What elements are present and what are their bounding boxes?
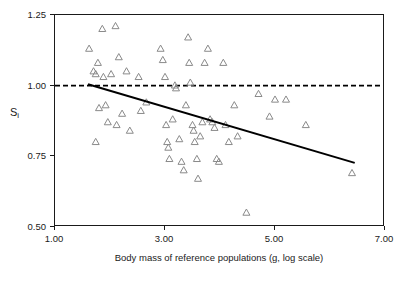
data-point-marker	[243, 209, 250, 215]
data-point-marker	[99, 25, 106, 31]
data-point-marker	[231, 102, 238, 108]
data-point-marker	[159, 56, 166, 62]
y-tick-label: 0.50	[6, 221, 46, 232]
plot-overlay	[55, 15, 383, 225]
data-point-marker	[178, 158, 185, 164]
data-point-marker	[266, 113, 273, 119]
data-point-marker	[115, 54, 122, 60]
data-point-marker	[272, 96, 279, 102]
x-tick-label: 5.00	[254, 233, 294, 244]
x-tick-label: 1.00	[34, 233, 74, 244]
x-axis-label: Body mass of reference populations (g, l…	[115, 252, 324, 263]
x-tick-label: 7.00	[364, 233, 404, 244]
y-axis-label: Si	[10, 106, 19, 118]
data-point-marker	[108, 71, 115, 77]
data-point-marker	[234, 133, 241, 139]
data-point-marker	[166, 155, 173, 161]
data-point-marker	[302, 121, 309, 127]
data-point-marker	[104, 119, 111, 125]
data-point-marker	[255, 90, 262, 96]
plot-area	[55, 15, 383, 225]
data-point-marker	[86, 45, 93, 51]
data-point-marker	[119, 110, 126, 116]
data-point-marker	[201, 59, 208, 65]
data-point-marker	[182, 102, 189, 108]
data-point-marker	[180, 167, 187, 173]
data-point-marker	[126, 127, 133, 133]
data-point-marker	[92, 138, 99, 144]
data-point-marker	[187, 79, 194, 85]
y-tick-label: 1.00	[6, 79, 46, 90]
data-point-marker	[162, 73, 169, 79]
data-point-marker	[94, 59, 101, 65]
x-tick-mark	[164, 226, 165, 230]
data-point-marker	[135, 73, 142, 79]
regression-line	[88, 84, 355, 163]
data-point-marker	[189, 121, 196, 127]
data-point-marker	[113, 121, 120, 127]
plot-frame	[54, 14, 384, 226]
data-point-marker	[102, 102, 109, 108]
data-point-marker	[225, 138, 232, 144]
x-tick-label: 3.00	[144, 233, 184, 244]
data-point-marker	[96, 104, 103, 110]
data-point-marker	[186, 59, 193, 65]
data-point-marker	[123, 68, 130, 74]
data-point-marker	[220, 59, 227, 65]
x-tick-mark	[54, 226, 55, 230]
data-point-marker	[193, 155, 200, 161]
data-point-marker	[157, 45, 164, 51]
data-point-marker	[112, 22, 119, 28]
y-tick-label: 0.75	[6, 150, 46, 161]
data-point-marker	[169, 116, 176, 122]
data-point-marker	[185, 34, 192, 40]
data-point-marker	[164, 138, 171, 144]
x-tick-mark	[384, 226, 385, 230]
scatter-chart: Si 0.500.751.001.25 1.003.005.007.00 Bod…	[0, 0, 415, 283]
data-point-marker	[349, 169, 356, 175]
data-point-marker	[176, 136, 183, 142]
data-point-marker	[100, 73, 107, 79]
data-point-marker	[283, 96, 290, 102]
y-tick-label: 1.25	[6, 9, 46, 20]
data-point-marker	[204, 45, 211, 51]
x-tick-mark	[274, 226, 275, 230]
data-point-marker	[137, 107, 144, 113]
y-axis-label-subscript: i	[17, 111, 19, 120]
data-point-marker	[195, 175, 202, 181]
